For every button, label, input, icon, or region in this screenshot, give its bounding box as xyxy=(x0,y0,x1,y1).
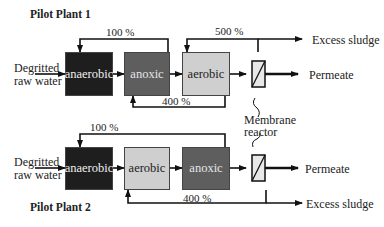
plant1-inlet-line1: Degritted xyxy=(14,62,59,74)
plant2-permeate: Permeate xyxy=(305,163,350,175)
plant2-title: Pilot Plant 2 xyxy=(30,201,91,213)
plant1-recycle-400: 400 % xyxy=(162,95,190,107)
plant1-permeate: Permeate xyxy=(309,69,354,81)
plant1-anaerobic-tank: anaerobic xyxy=(65,52,113,96)
plant2-excess-sludge: Excess sludge xyxy=(306,198,374,210)
plant1-aerobic-tank: aerobic xyxy=(182,52,230,96)
process-diagram: Pilot Plant 1 Degritted raw water anaero… xyxy=(0,0,384,227)
membrane-label-line2: reactor xyxy=(244,126,277,138)
plant1-recycle-500: 500 % xyxy=(215,25,243,37)
plant2-recycle-400: 400 % xyxy=(183,192,211,204)
plant2-recycle-100: 100 % xyxy=(90,121,118,133)
plant2-aerobic-tank: aerobic xyxy=(124,147,170,190)
plant1-inlet-line2: raw water xyxy=(14,75,62,87)
plant1-anoxic-tank: anoxic xyxy=(124,52,170,96)
plant2-anaerobic-tank: anaerobic xyxy=(65,147,113,190)
plant2-anoxic-tank: anoxic xyxy=(182,147,230,190)
plant1-recycle-100: 100 % xyxy=(106,26,134,38)
plant1-excess-sludge: Excess sludge xyxy=(312,34,380,46)
plant2-inlet-line2: raw water xyxy=(14,169,62,181)
plant2-inlet-line1: Degritted xyxy=(14,156,59,168)
plant1-title: Pilot Plant 1 xyxy=(30,8,91,20)
